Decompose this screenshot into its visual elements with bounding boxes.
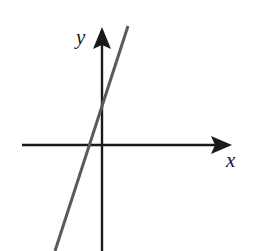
x-axis-label: x	[226, 150, 235, 171]
coordinate-plane-figure	[0, 0, 253, 251]
graph-canvas: y x	[0, 0, 253, 251]
plotted-line	[55, 26, 128, 251]
y-axis-label: y	[76, 27, 85, 48]
